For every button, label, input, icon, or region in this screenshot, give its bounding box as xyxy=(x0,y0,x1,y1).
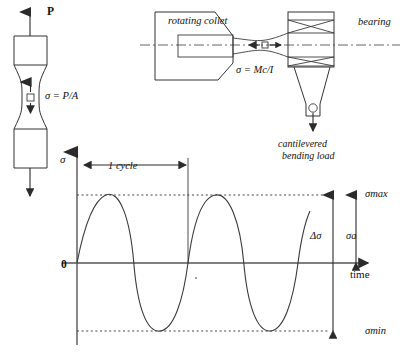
chart-x-axis-label: time xyxy=(350,268,370,280)
bearing-cross-hatch-upper xyxy=(288,20,334,33)
specimen-lower-grip xyxy=(14,129,47,168)
sigma-min-label: σmin xyxy=(365,325,386,336)
figure-canvas: P σ = P/A rotating collet bearing σ xyxy=(0,0,411,355)
collet-bore xyxy=(178,35,233,57)
sigma-amplitude-label: σa xyxy=(346,230,356,241)
one-cycle-label: 1 cycle xyxy=(108,160,138,171)
load-yoke xyxy=(294,67,330,116)
cantilevered-load-label-line1: cantilevered xyxy=(278,138,328,149)
sigma-max-label: σmax xyxy=(365,188,388,199)
bearing-cross-hatch-lower xyxy=(288,57,334,66)
delta-sigma-label: Δσ xyxy=(309,230,322,241)
tensile-load-label: P xyxy=(47,5,54,17)
specimen-gauge-neck xyxy=(14,65,47,129)
chart-origin-label: 0 xyxy=(61,258,67,270)
load-pin-eye xyxy=(309,104,317,112)
bending-stress-formula: σ = Mc/I xyxy=(236,64,274,75)
axial-stress-formula: σ = P/A xyxy=(45,90,79,101)
stress-element-square xyxy=(27,94,34,101)
rotating-collet-label: rotating collet xyxy=(168,15,228,26)
cantilevered-load-label-line2: bending load xyxy=(282,150,335,161)
bearing-label: bearing xyxy=(358,16,391,27)
stress-time-chart: σ 0 1 cycle time σmax σmin Δσ σa xyxy=(60,152,388,345)
chart-y-axis-label: σ xyxy=(60,153,66,165)
fatigue-figure: P σ = P/A rotating collet bearing σ xyxy=(0,0,411,355)
scan-speck xyxy=(195,277,197,279)
tensile-specimen-panel: P σ = P/A xyxy=(14,5,79,196)
rotating-beam-panel: rotating collet bearing σ = Mc/I cantile… xyxy=(140,12,400,161)
specimen-upper-grip xyxy=(14,36,47,65)
